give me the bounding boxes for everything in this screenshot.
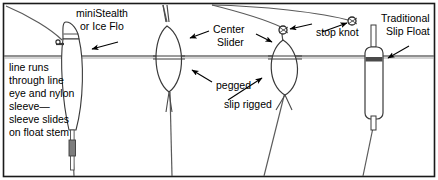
label-left-note-line3: eye and nylon	[9, 87, 75, 99]
label-left-note-line4: sleeve—	[9, 100, 50, 112]
diagram-canvas: miniStealth or Ice Flo line runs through…	[0, 0, 438, 180]
label-traditional-slip-float-line1: Traditional	[381, 12, 430, 24]
label-pegged: pegged	[216, 79, 251, 91]
label-stop-knot: stop knot	[316, 26, 359, 38]
label-left-note-line1: line runs	[9, 61, 49, 73]
label-center-slider: Center Slider	[213, 23, 245, 48]
float-rigging-diagram: miniStealth or Ice Flo line runs through…	[0, 0, 438, 180]
float-traditional-band	[366, 57, 383, 62]
label-left-note-line6: on float stem	[9, 126, 69, 138]
float-ministealth-nylon-sleeve	[69, 140, 76, 156]
label-slip-rigged: slip rigged	[224, 98, 272, 110]
float-ministealth-eye-ring	[56, 40, 60, 44]
label-ministealth-line1: miniStealth	[76, 7, 128, 19]
label-center-slider-line2: Slider	[217, 36, 244, 48]
label-left-note-line2: through line	[9, 74, 64, 86]
label-ministealth: miniStealth or Ice Flo	[76, 7, 128, 32]
label-traditional-slip-float: Traditional Slip Float	[381, 12, 430, 37]
label-ministealth-line2: or Ice Flo	[80, 20, 124, 32]
float-traditional-top-stem	[371, 25, 376, 47]
label-traditional-slip-float-line2: Slip Float	[386, 25, 430, 37]
label-left-note-line5: sleeve slides	[9, 113, 69, 125]
label-center-slider-line1: Center	[213, 23, 245, 35]
float-traditional-bottom-stem	[371, 116, 376, 130]
